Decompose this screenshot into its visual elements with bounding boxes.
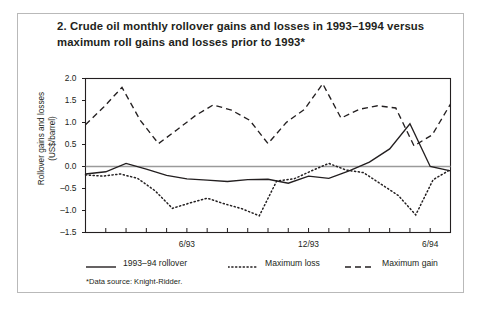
y-tick-label-4: 0.0: [51, 161, 77, 171]
legend-item-0: 1993–94 rollover: [86, 256, 187, 270]
y-tick-label-6: –1.0: [51, 205, 77, 215]
legend-label-2: Maximum gain: [382, 258, 438, 268]
y-tick-label-7: –1.5: [51, 227, 77, 237]
legend-label-1: Maximum loss: [265, 258, 320, 268]
x-tick-label-1: 12/93: [284, 239, 334, 249]
y-tick-label-5: –0.5: [51, 183, 77, 193]
y-tick-label-0: 2.0: [51, 73, 77, 83]
footnote: *Data source: Knight-Ridder.: [86, 277, 182, 286]
y-tick-label-1: 1.5: [51, 95, 77, 105]
y-tick-label-3: 0.5: [51, 139, 77, 149]
x-tick-label-2: 6/94: [405, 239, 455, 249]
plot-frame: [86, 79, 451, 233]
legend-item-2: Maximum gain: [345, 256, 438, 270]
y-tick-label-2: 1.0: [51, 117, 77, 127]
x-tick-label-0: 6/93: [162, 239, 212, 249]
legend-item-1: Maximum loss: [228, 256, 320, 270]
legend-swatch-dashed: [345, 258, 375, 268]
legend-label-0: 1993–94 rollover: [123, 258, 187, 268]
legend-swatch-solid: [86, 258, 116, 268]
legend-swatch-dotted: [228, 258, 258, 268]
chart-legend: 1993–94 rolloverMaximum lossMaximum gain: [86, 256, 436, 270]
